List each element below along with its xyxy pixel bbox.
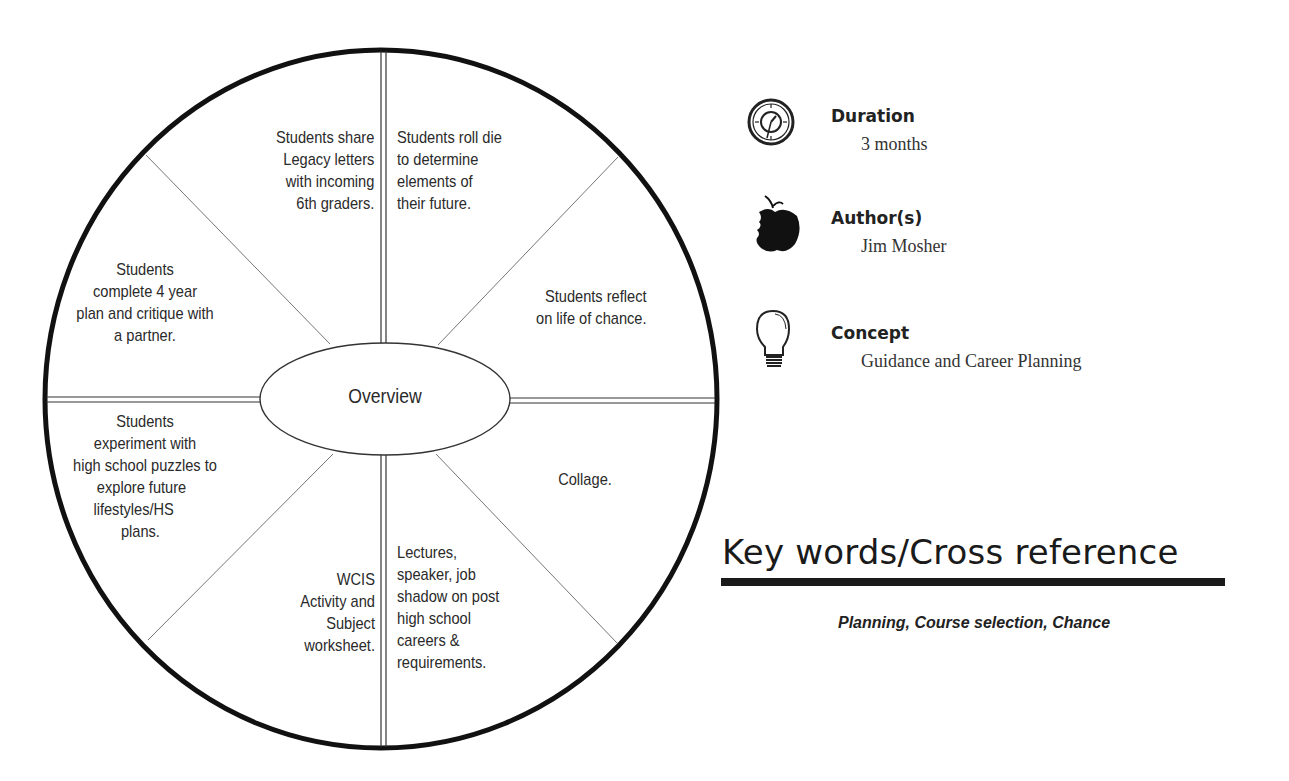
lightbulb-icon [745,309,805,369]
keywords-list: Planning, Course selection, Chance [722,614,1226,632]
segment-line: Students [63,259,226,281]
segment-line: requirements. [397,652,499,674]
segment-line: careers & [397,630,499,652]
segment-line: Activity and [300,591,375,613]
segment-right-lower: Collage. [538,469,633,491]
concept-value: Guidance and Career Planning [861,351,1081,372]
segment-line: on life of chance. [536,308,647,330]
keywords-divider [721,578,1225,586]
segment-line: Collage. [538,469,633,491]
overview-label: Overview [310,385,460,408]
segment-line: plan and critique with [63,303,226,325]
segment-line: 6th graders. [276,193,374,215]
keywords-title: Key words/Cross reference [722,532,1179,572]
apple-icon [745,194,805,254]
segment-line: shadow on post [397,586,499,608]
segment-left-upper: Students complete 4 year plan and critiq… [63,259,226,347]
segment-bottom-right: Lectures, speaker, job shadow on post hi… [397,542,499,674]
segment-left-lower: Students experiment with high school puz… [59,411,231,543]
segment-line: Lectures, [397,542,499,564]
segment-line: with incoming [276,171,374,193]
segment-line: Students reflect [536,286,647,308]
segment-line: speaker, job [397,564,499,586]
segment-line: Subject [300,613,375,635]
segment-bottom-left: WCIS Activity and Subject worksheet. [300,569,375,657]
segment-line: experiment with [59,433,231,455]
segment-line: to determine [397,149,502,171]
segment-top-left: Students share Legacy letters with incom… [276,127,374,215]
segment-line: complete 4 year [63,281,226,303]
duration-label: Duration [831,106,915,126]
segment-line: explore future [52,477,231,499]
segment-line: WCIS [300,569,375,591]
authors-value: Jim Mosher [861,236,947,257]
duration-value: 3 months [861,134,928,155]
segment-line: high school [397,608,499,630]
segment-line: lifestyles/HS [59,499,231,521]
clock-icon [745,96,805,156]
segment-right-upper: Students reflect on life of chance. [536,286,647,330]
segment-line: worksheet. [300,635,375,657]
segment-line: Legacy letters [276,149,374,171]
authors-label: Author(s) [831,208,922,228]
segment-line: Students [59,411,231,433]
segment-line: plans. [59,521,231,543]
segment-top-right: Students roll die to determine elements … [397,127,502,215]
segment-line: Students roll die [397,127,502,149]
segment-line: elements of [397,171,502,193]
segment-line: their future. [397,193,502,215]
segment-line: Students share [276,127,374,149]
concept-label: Concept [831,323,909,343]
segment-line: high school puzzles to [59,455,231,477]
segment-line: a partner. [63,325,226,347]
